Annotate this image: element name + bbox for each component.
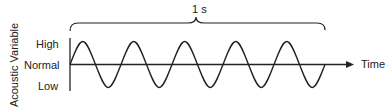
duration-bracket — [70, 17, 325, 31]
arrow-head-icon — [346, 61, 354, 68]
